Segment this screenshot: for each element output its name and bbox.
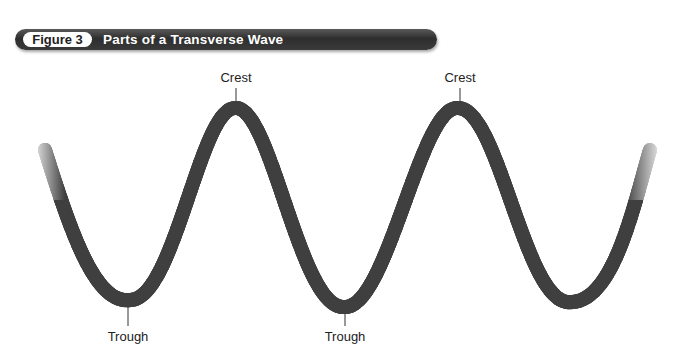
rope-wave-illustration xyxy=(0,0,682,358)
trough-label-2: Trough xyxy=(315,329,375,344)
crest-label-1: Crest xyxy=(206,70,266,85)
crest-label-2: Crest xyxy=(430,70,490,85)
rope xyxy=(45,108,650,307)
trough-label-1: Trough xyxy=(98,329,158,344)
